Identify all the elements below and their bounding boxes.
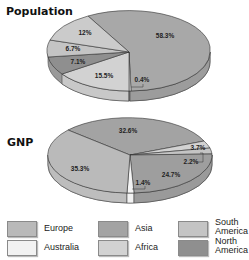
label-gnp-africa: 3.7% xyxy=(191,144,206,151)
label-gnp-north-america: 24.7% xyxy=(162,171,181,178)
label-gnp-asia: 32.6% xyxy=(119,127,138,134)
legend-label-south-america: South America xyxy=(215,218,248,236)
legend-swatch-africa xyxy=(98,240,128,256)
legend-swatch-north-america xyxy=(178,240,208,256)
legend-swatch-asia xyxy=(98,221,128,237)
label-pop-africa: 15.5% xyxy=(95,72,114,79)
label-pop-south-america: 6.7% xyxy=(66,45,81,52)
legend-label-north-america: North America xyxy=(215,237,248,255)
label-gnp-europe: 35.3% xyxy=(71,165,90,172)
pie-side-australia xyxy=(127,193,134,203)
legend-label-australia: Australia xyxy=(44,243,79,252)
legend-swatch-australia xyxy=(7,240,37,256)
label-gnp-australia: 1.4% xyxy=(136,179,151,186)
label-gnp-south-america: 2.2% xyxy=(184,158,199,165)
legend-swatch-europe xyxy=(7,221,37,237)
label-pop-asia: 58.3% xyxy=(156,32,175,39)
label-pop-europe: 12% xyxy=(78,29,91,36)
legend-label-africa: Africa xyxy=(135,243,158,252)
legend-swatch-south-america xyxy=(178,221,208,237)
gnp-pie-chart: 32.6% 3.7% 2.2% 24.7% 1.4% 35.3% xyxy=(0,110,249,210)
label-pop-north-america: 7.1% xyxy=(71,58,86,65)
legend-label-europe: Europe xyxy=(44,224,73,233)
legend-label-asia: Asia xyxy=(135,224,153,233)
label-pop-australia: 0.4% xyxy=(135,76,150,83)
population-pie-chart: 58.3% 12% 6.7% 7.1% 15.5% 0.4% xyxy=(0,0,249,110)
